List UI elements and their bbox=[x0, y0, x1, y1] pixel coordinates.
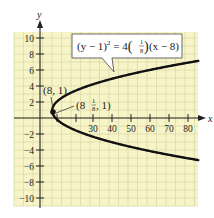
parabola-chart: x y 30 40 50 60 70 80 10 8 6 4 2 −2 −4 −… bbox=[0, 0, 214, 218]
y-tick-label: 4 bbox=[29, 82, 34, 92]
y-tick-label: 6 bbox=[29, 66, 34, 76]
y-tick-label: −6 bbox=[24, 162, 34, 172]
vertex-label: (8, 1) bbox=[43, 84, 67, 97]
eq-paren-open: ( bbox=[128, 39, 133, 55]
focus-label-den: 8 bbox=[92, 105, 95, 112]
x-axis-label: x bbox=[207, 113, 213, 124]
x-tick-label: 60 bbox=[145, 124, 155, 134]
eq-part1: (y − 1) bbox=[77, 40, 107, 53]
x-tick-label: 40 bbox=[107, 124, 117, 134]
eq-part3: (x − 8) bbox=[149, 40, 179, 53]
eq-frac-den: 8 bbox=[140, 47, 143, 54]
y-axis-label: y bbox=[36, 9, 42, 20]
x-tick-label: 80 bbox=[183, 124, 193, 134]
x-tick-label: 30 bbox=[88, 124, 98, 134]
y-tick-label: −10 bbox=[19, 194, 34, 204]
y-tick-label: −2 bbox=[24, 130, 34, 140]
eq-part2: = 4 bbox=[111, 40, 129, 52]
x-tick-label: 70 bbox=[164, 124, 174, 134]
x-tick-label: 50 bbox=[126, 124, 136, 134]
focus-label-pre: (8 bbox=[76, 99, 86, 112]
focus-label-num: 1 bbox=[92, 97, 95, 104]
y-axis-arrow-icon bbox=[37, 20, 43, 28]
y-tick-label: −8 bbox=[24, 178, 34, 188]
focus-label-post: , 1) bbox=[96, 99, 111, 112]
y-tick-label: 2 bbox=[29, 98, 34, 108]
y-tick-label: −4 bbox=[24, 146, 34, 156]
eq-frac-num: 1 bbox=[140, 38, 143, 45]
focus-label: (8 1 8 , 1) bbox=[76, 97, 111, 112]
y-tick-label: 10 bbox=[25, 34, 35, 44]
y-tick-label: 8 bbox=[29, 50, 34, 60]
vertex-point bbox=[50, 109, 56, 115]
x-axis-arrow-icon bbox=[198, 115, 206, 121]
